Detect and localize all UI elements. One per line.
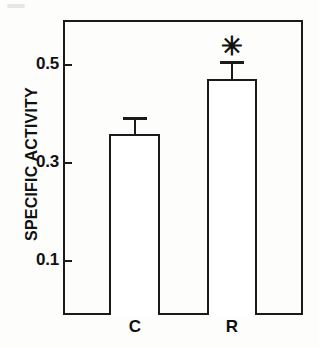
x-label-c: C: [105, 318, 165, 335]
plot-frame: [63, 20, 303, 315]
scan-artifact: [7, 4, 25, 8]
significance-asterisk: ✳: [217, 33, 247, 59]
y-axis-title: SPECIFIC ACTIVITY: [23, 54, 41, 274]
bar-chart-figure: 0.5 0.3 0.1 SPECIFIC ACTIVITY ✳ C R: [0, 0, 319, 348]
y-tick-mark-0.5: [63, 64, 72, 66]
x-label-r: R: [202, 318, 262, 335]
bar-r: [207, 79, 257, 315]
bar-c: [109, 134, 160, 315]
y-tick-mark-0.1: [63, 260, 72, 262]
y-tick-mark-0.3: [63, 162, 72, 164]
error-bar-cap-c: [123, 117, 147, 120]
error-bar-cap-r: [220, 61, 244, 64]
